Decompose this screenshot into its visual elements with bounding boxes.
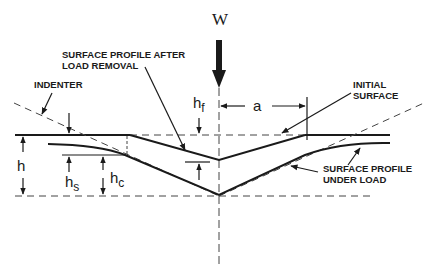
leader-initial-surface bbox=[282, 93, 351, 133]
label-after-removal-1: SURFACE PROFILE AFTER bbox=[62, 49, 185, 60]
indentation-diagram: W h hs hc hf bbox=[0, 0, 437, 279]
h-label: h bbox=[17, 157, 25, 174]
leader-after-removal bbox=[145, 67, 185, 150]
a-dimension bbox=[221, 97, 307, 140]
leader-under-load-1 bbox=[291, 166, 318, 172]
a-label: a bbox=[253, 97, 262, 114]
load-arrow bbox=[212, 40, 226, 88]
label-indenter: INDENTER bbox=[34, 79, 83, 90]
leader-indenter bbox=[42, 93, 52, 114]
label-under-load-2: UNDER LOAD bbox=[323, 174, 386, 185]
profile-after-removal bbox=[130, 135, 305, 160]
hs-label: hs bbox=[65, 173, 79, 194]
label-after-removal-2: LOAD REMOVAL bbox=[62, 60, 139, 71]
hf-dimension bbox=[185, 118, 210, 180]
label-initial-2: SURFACE bbox=[353, 90, 398, 101]
label-initial-1: INITIAL bbox=[353, 79, 386, 90]
hf-label: hf bbox=[193, 94, 205, 115]
hc-label: hc bbox=[110, 169, 124, 190]
label-under-load-1: SURFACE PROFILE bbox=[323, 163, 412, 174]
load-label: W bbox=[212, 10, 229, 29]
